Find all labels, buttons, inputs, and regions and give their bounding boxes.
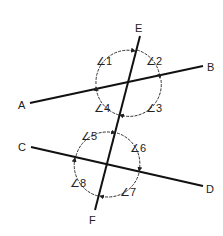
label-d: D xyxy=(206,183,214,195)
angle-label-3: ∠3 xyxy=(146,102,162,114)
line-cd xyxy=(31,147,203,186)
angle-label-6: ∠6 xyxy=(130,142,146,154)
angle-label-8: ∠8 xyxy=(70,177,86,189)
angle-label-7: ∠7 xyxy=(120,186,136,198)
angle-label-4: ∠4 xyxy=(94,102,110,114)
angle-label-5: ∠5 xyxy=(81,130,97,142)
line-ab xyxy=(30,66,203,103)
label-c: C xyxy=(18,141,26,153)
angle-label-1: ∠1 xyxy=(96,55,112,67)
label-b: B xyxy=(207,61,214,73)
label-f: F xyxy=(89,214,96,226)
angle-label-2: ∠2 xyxy=(146,55,162,67)
label-a: A xyxy=(18,99,26,111)
label-e: E xyxy=(135,22,142,34)
transversal-diagram: A B C D E F ∠1 ∠2 ∠3 ∠4 ∠5 ∠6 ∠7 ∠8 xyxy=(0,0,223,236)
